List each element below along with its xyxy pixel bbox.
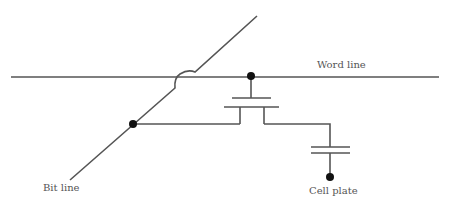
bit-line-junction-dot <box>129 120 137 128</box>
cell-plate-label: Cell plate <box>309 185 358 196</box>
dram-cell-schematic <box>0 0 452 208</box>
word-line-label: Word line <box>317 59 366 70</box>
cell-plate-terminal-dot <box>326 173 334 181</box>
bit-line <box>70 16 257 180</box>
word-line-junction-dot <box>247 72 255 80</box>
bit-line-label: Bit line <box>43 182 80 193</box>
drain-to-capacitor-wire <box>264 124 330 147</box>
